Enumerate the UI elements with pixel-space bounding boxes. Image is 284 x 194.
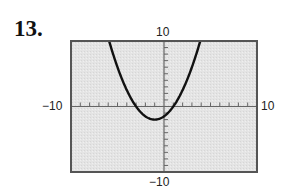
y-max-label: 10 [156,25,169,39]
y-min-label: −10 [149,175,169,189]
graph-window [0,0,284,194]
x-min-label: −10 [42,99,62,113]
x-max-label: 10 [261,99,274,113]
